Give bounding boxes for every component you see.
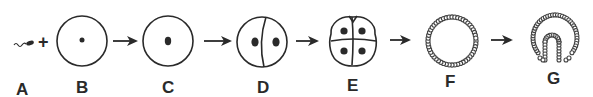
plus-sign: + — [38, 32, 49, 52]
label-b: B — [76, 78, 88, 97]
label-d: D — [257, 78, 269, 97]
arrow-d-to-e — [296, 36, 319, 46]
arrow-b-to-c — [113, 36, 138, 46]
arrow-f-to-g — [491, 35, 513, 45]
label-g: G — [547, 69, 560, 88]
label-e: E — [347, 76, 358, 95]
label-c: C — [162, 78, 174, 97]
stage-a-sperm — [14, 40, 35, 47]
stage-d-two-cell — [237, 17, 287, 67]
stage-f-blastula — [426, 15, 478, 67]
stage-b-egg — [57, 16, 107, 66]
stage-e-four-cell — [330, 16, 377, 66]
stage-g-gastrula — [531, 13, 579, 62]
label-f: F — [445, 72, 455, 91]
arrow-c-to-d — [204, 36, 232, 46]
label-a: A — [16, 80, 28, 97]
embryo-development-diagram: + A B C D — [0, 0, 593, 97]
stage-c-zygote — [143, 16, 193, 66]
arrow-e-to-f — [390, 35, 411, 45]
